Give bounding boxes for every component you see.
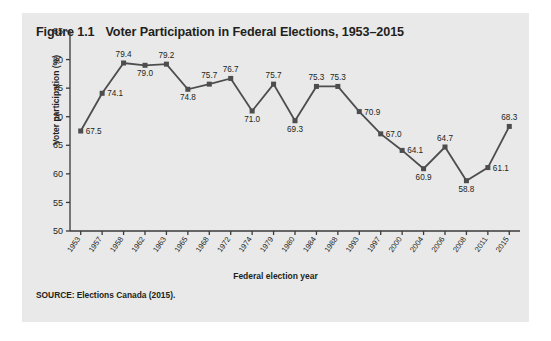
data-point-marker bbox=[143, 63, 148, 68]
data-point-label: 76.7 bbox=[223, 65, 239, 74]
figure-panel: Figure 1.1Voter Participation in Federal… bbox=[22, 13, 529, 322]
y-tick-label: 85 bbox=[53, 26, 63, 36]
data-point-label: 74.8 bbox=[180, 93, 196, 102]
data-point-label: 60.9 bbox=[416, 173, 432, 182]
x-tick-label: 1984 bbox=[301, 235, 318, 254]
x-tick-label: 1993 bbox=[344, 235, 361, 254]
data-point-label: 79.2 bbox=[158, 51, 174, 60]
data-point-marker bbox=[464, 178, 469, 183]
data-point-marker bbox=[185, 87, 190, 92]
data-point-marker bbox=[378, 131, 383, 136]
data-point-label: 64.1 bbox=[407, 146, 423, 155]
data-point-marker bbox=[293, 118, 298, 123]
data-point-label: 71.0 bbox=[244, 115, 260, 124]
data-point-marker bbox=[207, 82, 212, 87]
x-tick-label: 1957 bbox=[87, 235, 104, 254]
data-point-marker bbox=[164, 62, 169, 67]
x-tick-label: 1962 bbox=[130, 235, 147, 254]
x-tick-label: 1958 bbox=[108, 235, 125, 254]
data-point-marker bbox=[421, 166, 426, 171]
data-point-label: 74.1 bbox=[107, 89, 123, 98]
x-tick-label: 2008 bbox=[451, 235, 468, 254]
data-point-label: 75.3 bbox=[330, 73, 346, 82]
data-point-marker bbox=[228, 76, 233, 81]
data-point-label: 79.0 bbox=[137, 69, 153, 78]
x-tick-label: 1968 bbox=[194, 235, 211, 254]
y-tick-label: 60 bbox=[53, 169, 63, 179]
data-point-label: 79.4 bbox=[116, 50, 132, 59]
source-label: SOURCE: bbox=[36, 290, 75, 300]
x-tick-label: 1980 bbox=[280, 235, 297, 254]
data-point-label: 68.3 bbox=[501, 113, 517, 122]
x-tick-label: 1979 bbox=[258, 235, 275, 254]
source-text: Elections Canada (2015). bbox=[77, 290, 176, 300]
data-point-marker bbox=[485, 165, 490, 170]
data-point-label: 75.7 bbox=[201, 71, 217, 80]
data-point-marker bbox=[121, 61, 126, 66]
data-point-label: 61.1 bbox=[493, 164, 509, 173]
data-point-label: 58.8 bbox=[458, 185, 474, 194]
data-point-marker bbox=[443, 145, 448, 150]
data-point-label: 75.7 bbox=[266, 71, 282, 80]
y-tick-label: 50 bbox=[53, 226, 63, 236]
data-point-label: 67.0 bbox=[386, 130, 402, 139]
data-point-marker bbox=[335, 84, 340, 89]
x-axis-title: Federal election year bbox=[22, 271, 529, 281]
data-point-label: 67.5 bbox=[86, 127, 102, 136]
x-tick-label: 2006 bbox=[430, 235, 447, 254]
data-point-marker bbox=[314, 84, 319, 89]
x-tick-label: 1974 bbox=[237, 235, 254, 254]
x-tick-label: 1953 bbox=[65, 235, 82, 254]
data-point-marker bbox=[271, 82, 276, 87]
data-point-marker bbox=[250, 109, 255, 114]
data-point-label: 75.3 bbox=[308, 73, 324, 82]
data-point-marker bbox=[507, 124, 512, 129]
figure-container: Figure 1.1Voter Participation in Federal… bbox=[0, 0, 551, 341]
y-axis-title: Voter participation (%) bbox=[51, 40, 61, 160]
x-tick-label: 2011 bbox=[473, 235, 490, 254]
data-point-marker bbox=[78, 129, 83, 134]
x-tick-label: 2000 bbox=[387, 235, 404, 254]
x-tick-label: 1963 bbox=[151, 235, 168, 254]
data-point-marker bbox=[100, 91, 105, 96]
x-tick-label: 1965 bbox=[172, 235, 189, 254]
data-point-label: 70.9 bbox=[364, 108, 380, 117]
chart-plot-area: 5055606570758085195319571958196219631965… bbox=[22, 13, 529, 322]
data-point-label: 69.3 bbox=[287, 125, 303, 134]
data-point-label: 64.7 bbox=[437, 134, 453, 143]
x-tick-label: 1988 bbox=[322, 235, 339, 254]
x-tick-label: 2015 bbox=[494, 235, 511, 254]
y-tick-label: 55 bbox=[53, 198, 63, 208]
source-note: SOURCE:Elections Canada (2015). bbox=[36, 290, 175, 300]
data-point-marker bbox=[400, 148, 405, 153]
data-point-marker bbox=[357, 109, 362, 114]
x-tick-label: 2004 bbox=[408, 235, 425, 254]
x-tick-label: 1972 bbox=[215, 235, 232, 254]
x-tick-label: 1997 bbox=[365, 235, 382, 254]
